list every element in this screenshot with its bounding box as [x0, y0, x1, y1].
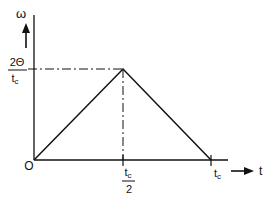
svg-text:tc: tc: [124, 166, 131, 180]
svg-text:tc: tc: [11, 72, 18, 86]
origin-label: O: [24, 159, 33, 173]
end-tick-label: tc: [214, 167, 221, 181]
y-axis-label: ω: [16, 6, 26, 21]
peak-value-label: 2Θ tc: [8, 56, 27, 86]
up-arrow-icon: [22, 23, 30, 48]
mid-tick-label: tc 2: [122, 166, 135, 195]
x-axis-label: t: [259, 164, 263, 178]
svg-text:2Θ: 2Θ: [10, 56, 25, 68]
svg-text:2: 2: [126, 183, 132, 195]
velocity-profile-diagram: ω 2Θ tc O tc 2 tc: [0, 0, 270, 200]
right-arrow-icon: [231, 167, 254, 175]
